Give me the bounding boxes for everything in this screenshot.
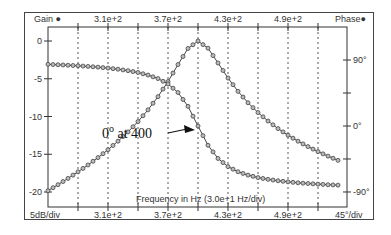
data-marker <box>231 167 235 171</box>
data-marker <box>241 171 245 175</box>
data-marker <box>326 183 330 187</box>
data-marker <box>106 148 110 152</box>
data-marker <box>266 119 270 123</box>
left-scale-label: 5dB/div <box>30 210 61 220</box>
data-marker <box>251 106 255 110</box>
data-marker <box>286 180 290 184</box>
data-marker <box>221 161 225 165</box>
gain-axis-label: Gain ● <box>34 14 61 24</box>
data-marker <box>296 181 300 185</box>
y-tick-label-right: -90° <box>353 187 370 197</box>
data-marker <box>51 63 55 67</box>
data-marker <box>216 61 220 65</box>
data-marker <box>151 75 155 79</box>
data-marker <box>276 127 280 131</box>
data-marker <box>101 66 105 70</box>
data-marker <box>196 39 200 43</box>
data-marker <box>216 156 220 160</box>
data-marker <box>96 156 100 160</box>
annotation-text: 0o at 400 <box>102 123 152 141</box>
data-marker <box>106 66 110 70</box>
data-marker <box>61 180 65 184</box>
phase-axis-label: Phase● <box>335 14 366 24</box>
data-marker <box>136 120 140 124</box>
data-marker <box>76 170 80 174</box>
data-marker <box>56 183 60 187</box>
data-marker <box>46 189 50 193</box>
x-tick-label-bottom: 3.1e+2 <box>94 210 122 220</box>
data-marker <box>286 133 290 137</box>
data-marker <box>146 108 150 112</box>
y-tick-label-left: -15 <box>29 149 42 159</box>
data-marker <box>236 89 240 93</box>
data-marker <box>136 70 140 74</box>
right-scale-label: 45°/div <box>335 210 363 220</box>
x-tick-label-bottom: 4.9e+2 <box>274 210 302 220</box>
data-marker <box>156 95 160 99</box>
data-marker <box>261 176 265 180</box>
data-marker <box>71 63 75 67</box>
data-marker <box>331 183 335 187</box>
data-marker <box>111 67 115 71</box>
data-marker <box>131 70 135 74</box>
data-marker <box>171 86 175 90</box>
data-marker <box>271 123 275 127</box>
data-marker <box>96 65 100 69</box>
data-marker <box>91 65 95 69</box>
x-tick-label-top: 4.9e+2 <box>274 14 302 24</box>
data-marker <box>316 150 320 154</box>
y-tick-label-left: 0 <box>37 36 42 46</box>
data-marker <box>246 173 250 177</box>
data-marker <box>86 64 90 68</box>
data-marker <box>336 158 340 162</box>
bode-plot: 3.1e+23.1e+23.7e+23.7e+24.3e+24.3e+24.9e… <box>0 0 391 235</box>
data-marker <box>116 67 120 71</box>
data-marker <box>331 156 335 160</box>
data-marker <box>81 64 85 68</box>
data-marker <box>146 73 150 77</box>
data-marker <box>186 104 190 108</box>
data-marker <box>51 186 55 190</box>
data-marker <box>171 71 175 75</box>
data-marker <box>311 147 315 151</box>
data-marker <box>46 62 50 66</box>
y-tick-label-right: 90° <box>353 55 367 65</box>
data-marker <box>211 54 215 58</box>
data-marker <box>181 97 185 101</box>
data-marker <box>261 115 265 119</box>
data-marker <box>241 95 245 99</box>
data-marker <box>281 130 285 134</box>
data-marker <box>186 46 190 50</box>
data-marker <box>176 63 180 67</box>
data-marker <box>281 179 285 183</box>
data-marker <box>291 136 295 140</box>
y-tick-label-left: -20 <box>29 187 42 197</box>
data-marker <box>231 83 235 87</box>
x-tick-label-top: 3.7e+2 <box>154 14 182 24</box>
data-marker <box>326 154 330 158</box>
x-tick-label-bottom: 3.7e+2 <box>154 210 182 220</box>
data-marker <box>306 182 310 186</box>
data-marker <box>246 101 250 105</box>
data-marker <box>301 181 305 185</box>
data-marker <box>71 173 75 177</box>
data-marker <box>251 174 255 178</box>
data-marker <box>151 101 155 105</box>
annotation-arrowhead-icon <box>184 125 195 133</box>
y-tick-label-left: -5 <box>34 74 42 84</box>
x-axis-label: Frequency in Hz (3.0e+1 Hz/div) <box>136 194 265 204</box>
data-marker <box>166 82 170 86</box>
data-marker <box>226 76 230 80</box>
data-marker <box>296 139 300 143</box>
data-marker <box>81 166 85 170</box>
x-tick-label-top: 4.3e+2 <box>214 14 242 24</box>
data-marker <box>301 142 305 146</box>
data-marker <box>321 182 325 186</box>
data-marker <box>321 152 325 156</box>
data-marker <box>306 145 310 149</box>
x-tick-label-top: 3.1e+2 <box>94 14 122 24</box>
data-marker <box>206 46 210 50</box>
data-marker <box>126 69 130 73</box>
data-marker <box>191 43 195 47</box>
data-marker <box>311 182 315 186</box>
